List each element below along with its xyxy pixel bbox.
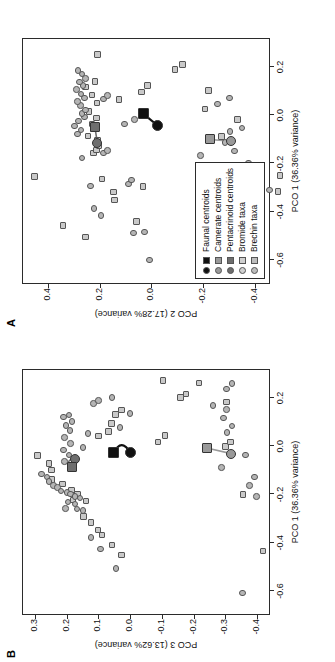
data-point <box>197 152 204 159</box>
x-tick <box>270 445 274 446</box>
legend-square-icon <box>227 257 234 264</box>
data-point <box>93 115 100 122</box>
data-point <box>121 121 128 128</box>
data-point <box>104 147 111 154</box>
data-point <box>97 546 104 553</box>
data-point <box>226 449 236 459</box>
data-point <box>89 92 96 99</box>
legend-swatch-group <box>251 252 258 274</box>
data-point <box>162 432 169 439</box>
data-point <box>75 67 82 74</box>
x-axis-title: PCO 1 (36.36% variance) <box>290 369 300 615</box>
data-point <box>205 135 215 145</box>
data-point <box>48 467 55 474</box>
data-point <box>83 498 90 505</box>
x-tick <box>270 397 274 398</box>
data-point <box>152 120 163 131</box>
x-tick <box>270 259 274 260</box>
data-point <box>85 133 92 140</box>
data-point <box>146 257 153 264</box>
legend-item: Camerate centroids <box>212 168 224 274</box>
y-axis-title: PCO 2 (17.28% variance) <box>22 309 270 319</box>
x-tick-label: -0.6 <box>275 249 285 271</box>
data-point <box>202 443 212 453</box>
plot-area-b <box>22 369 270 615</box>
data-point <box>91 205 98 212</box>
data-point <box>251 474 258 481</box>
data-point <box>62 505 69 512</box>
legend-circle-icon <box>227 267 234 274</box>
data-point <box>80 513 87 520</box>
data-point <box>125 447 136 458</box>
data-point <box>223 406 230 413</box>
data-point <box>63 422 70 429</box>
legend-swatch-group <box>239 252 246 274</box>
data-point <box>94 100 101 107</box>
data-point <box>99 176 106 183</box>
data-point <box>46 460 53 467</box>
data-point <box>67 440 74 447</box>
legend-square-icon <box>239 257 246 264</box>
x-tick <box>270 162 274 163</box>
data-point <box>227 128 234 135</box>
data-point <box>172 66 179 73</box>
data-point <box>226 136 236 146</box>
x-axis-title: PCO 1 (36.36% variance) <box>290 38 300 284</box>
data-point <box>138 89 145 96</box>
data-point <box>239 590 246 597</box>
data-point <box>88 519 95 526</box>
data-point <box>223 399 230 406</box>
data-point <box>220 415 227 422</box>
data-point <box>82 234 89 241</box>
legend-square-icon <box>203 257 210 264</box>
data-point <box>85 430 92 437</box>
x-tick <box>270 542 274 543</box>
legend-label: Camerate centroids <box>212 178 224 252</box>
data-point <box>74 98 81 105</box>
data-point <box>110 189 117 196</box>
data-point <box>87 183 94 190</box>
data-point <box>275 188 282 195</box>
data-point <box>61 434 68 441</box>
panel-a: A Faunal centroidsCamerate centroidsPent… <box>0 0 335 331</box>
plot-area-a: Faunal centroidsCamerate centroidsPentac… <box>22 38 270 284</box>
data-point <box>155 439 162 446</box>
data-point <box>196 380 203 387</box>
data-point <box>242 452 249 459</box>
legend-circle-icon <box>215 267 222 274</box>
x-tick-label: -0.2 <box>275 152 285 174</box>
legend-swatch-group <box>203 252 210 274</box>
legend: Faunal centroidsCamerate centroidsPentac… <box>195 162 265 279</box>
data-point <box>67 462 77 472</box>
data-point <box>260 548 267 555</box>
panel-b: B -0.6-0.4-0.20.00.2-0.4-0.3-0.2-0.10.00… <box>0 331 335 662</box>
data-point <box>140 183 147 190</box>
data-point <box>108 447 119 458</box>
x-tick-label: 0.2 <box>275 387 285 409</box>
data-point <box>131 116 138 123</box>
data-point <box>240 491 247 498</box>
plot-points-b <box>23 370 269 614</box>
data-point <box>92 78 99 85</box>
data-point <box>223 386 230 393</box>
x-tick-label: -0.4 <box>275 201 285 223</box>
data-point <box>227 439 234 446</box>
legend-label: Faunal centroids <box>200 189 212 252</box>
data-point <box>138 108 149 119</box>
data-point <box>60 222 67 229</box>
legend-label: Bromide taxa <box>236 202 248 252</box>
data-point <box>31 173 38 180</box>
data-point <box>127 410 134 417</box>
data-point <box>79 155 86 162</box>
data-point <box>231 148 238 155</box>
data-point <box>224 429 231 436</box>
x-tick <box>270 211 274 212</box>
legend-item: Faunal centroids <box>200 168 212 274</box>
data-point <box>214 101 221 108</box>
data-point <box>80 507 87 514</box>
data-point <box>118 552 125 559</box>
legend-square-icon <box>251 257 258 264</box>
legend-label: Pentacrinoid centroids <box>224 168 236 252</box>
x-tick <box>270 66 274 67</box>
data-point <box>95 433 102 440</box>
